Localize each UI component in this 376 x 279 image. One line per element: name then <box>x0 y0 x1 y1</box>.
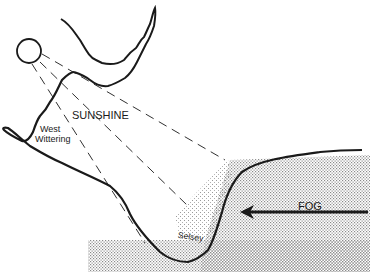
coastline-north <box>61 8 155 86</box>
sun-circle-icon <box>17 39 41 63</box>
coast-fog-diagram: SUNSHINE West Wittering Selsey FOG <box>0 0 376 279</box>
fog-label: FOG <box>298 200 322 212</box>
sunshine-label: SUNSHINE <box>72 109 129 121</box>
west-wittering-label-line1: West <box>40 124 61 134</box>
west-wittering-label-line2: Wittering <box>35 134 71 144</box>
